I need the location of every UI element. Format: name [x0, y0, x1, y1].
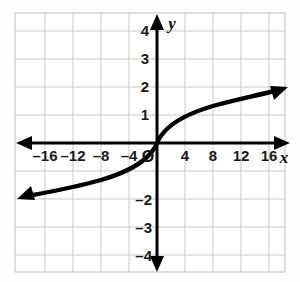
y-tick-label-2: 2 [141, 78, 149, 95]
y-tick-label-neg4: –4 [135, 247, 152, 264]
x-tick-label-12: 12 [233, 147, 250, 164]
y-tick-label-neg2: –2 [135, 191, 152, 208]
x-tick-label-neg4: –4 [121, 147, 138, 164]
x-tick-label-neg8: –8 [93, 147, 110, 164]
origin-label: O [142, 148, 154, 165]
y-tick-label-3: 3 [141, 50, 149, 67]
graph-figure: –16 –12 –8 –4 O 4 8 12 16 4 3 2 1 –2 –3 … [0, 0, 300, 282]
x-tick-label-4: 4 [181, 147, 190, 164]
y-axis-label: y [166, 14, 176, 33]
y-tick-label-neg3: –3 [135, 219, 152, 236]
y-tick-label-1: 1 [141, 106, 149, 123]
coordinate-plane: –16 –12 –8 –4 O 4 8 12 16 4 3 2 1 –2 –3 … [0, 0, 300, 282]
x-tick-label-8: 8 [209, 147, 217, 164]
x-tick-label-16: 16 [261, 147, 278, 164]
x-tick-label-neg12: –12 [60, 147, 85, 164]
x-axis-label: x [279, 148, 289, 167]
x-tick-label-neg16: –16 [32, 147, 57, 164]
y-tick-label-4: 4 [141, 22, 150, 39]
